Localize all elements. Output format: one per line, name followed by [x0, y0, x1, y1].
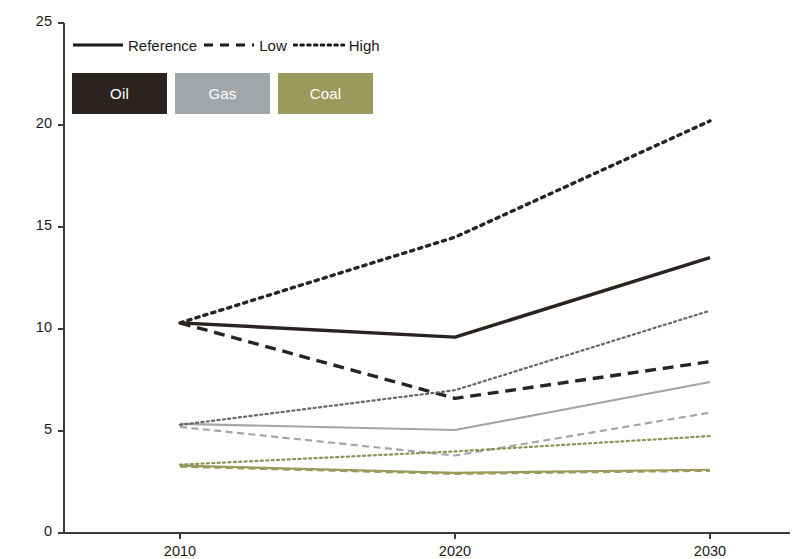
legend-line-sample-solid	[72, 38, 124, 52]
y-tick-label: 15	[18, 217, 52, 233]
y-tick-label: 25	[18, 13, 52, 29]
legend-entry-low: Low	[203, 32, 293, 58]
series-line-oil-low	[180, 323, 710, 398]
series-line-gas-reference	[180, 382, 710, 430]
legend-line-sample-dotted	[293, 38, 345, 52]
legend-line-sample-dashed	[203, 38, 255, 52]
legend-entry-high: High	[293, 32, 386, 58]
series-line-coal-high	[180, 436, 710, 465]
fuel-swatch-label-gas: Gas	[208, 85, 236, 102]
y-tick-label: 5	[18, 421, 52, 437]
fuel-swatch-label-oil: Oil	[110, 85, 129, 102]
fossil-fuel-price-chart: Fossil fuel price (€ GJ⁻¹) 0510152025 20…	[0, 0, 805, 559]
series-line-gas-low	[180, 413, 710, 456]
x-tick-label: 2030	[670, 543, 750, 559]
scenario-legend: ReferenceLowHigh	[72, 32, 386, 58]
legend-label-reference: Reference	[124, 37, 203, 54]
legend-label-high: High	[345, 37, 386, 54]
fuel-swatch-label-coal: Coal	[310, 85, 342, 102]
series-line-oil-high	[180, 121, 710, 323]
legend-label-low: Low	[255, 37, 293, 54]
x-tick-label: 2020	[415, 543, 495, 559]
y-tick-label: 10	[18, 319, 52, 335]
fuel-legend: OilGasCoal	[72, 73, 373, 114]
legend-entry-reference: Reference	[72, 32, 203, 58]
y-tick-label: 20	[18, 115, 52, 131]
fuel-swatch-oil: Oil	[72, 73, 167, 114]
fuel-swatch-coal: Coal	[278, 73, 373, 114]
data-series-group	[180, 121, 710, 474]
x-tick-label: 2010	[140, 543, 220, 559]
y-tick-label: 0	[18, 523, 52, 539]
fuel-swatch-gas: Gas	[175, 73, 270, 114]
